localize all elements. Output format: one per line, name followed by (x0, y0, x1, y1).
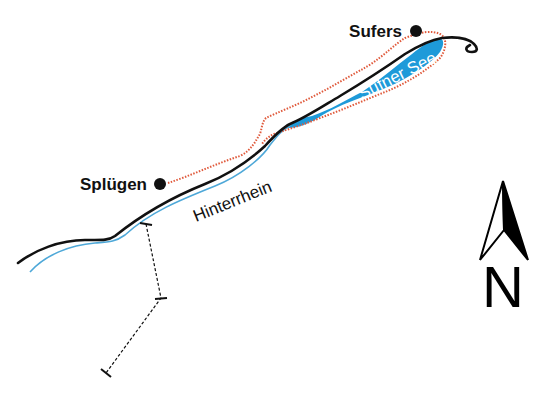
cable-car-line (101, 223, 167, 377)
label-sufers: Sufers (349, 22, 402, 41)
north-arrow-icon (480, 181, 528, 260)
town-marker-splugen (154, 178, 166, 190)
label-sufner-see: Sufner See (355, 48, 439, 104)
north-letter: N (482, 254, 524, 319)
label-splugen: Splügen (80, 175, 147, 194)
town-marker-sufers (410, 25, 422, 37)
map-canvas: Sufers Splügen Sufner See Hinterrhein N (0, 0, 551, 396)
